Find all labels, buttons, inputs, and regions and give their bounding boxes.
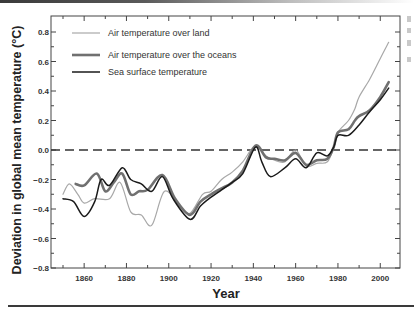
series-ocean-air-temp: [76, 82, 389, 215]
y-axis: 0.80.60.40.20.0−0.2−0.4−0.6−0.8: [33, 28, 400, 273]
y-axis-label: Deviation in global mean temperature (°C…: [10, 26, 24, 275]
x-tick-label: 1980: [329, 274, 347, 283]
clipped-text-fragment: [407, 16, 411, 22]
clipped-text-fragment: [407, 57, 411, 62]
y-tick-label: −0.4: [33, 205, 49, 214]
line-chart: 0.80.60.40.20.0−0.2−0.4−0.6−0.8 18601880…: [0, 0, 414, 312]
clipped-text-fragment: [407, 28, 411, 33]
x-tick-label: 1860: [75, 274, 93, 283]
y-tick-label: 0.8: [38, 28, 50, 37]
x-tick-label: 1940: [244, 274, 262, 283]
x-tick-label: 1960: [287, 274, 305, 283]
y-tick-label: −0.8: [33, 264, 49, 273]
y-tick-label: 0.0: [38, 146, 50, 155]
y-tick-label: 0.6: [38, 58, 50, 67]
y-tick-label: −0.2: [33, 176, 49, 185]
clipped-text-fragment: [407, 40, 411, 46]
bottom-rule: [8, 305, 414, 307]
x-tick-label: 2000: [371, 274, 389, 283]
legend-label-sea-surface: Sea surface temperature: [108, 67, 207, 77]
x-tick-label: 1880: [118, 274, 136, 283]
legend: Air temperature over land Air temperatur…: [72, 28, 237, 77]
x-axis-label: Year: [212, 286, 239, 301]
y-tick-label: 0.2: [38, 117, 50, 126]
series-sea-surface-temp: [63, 88, 389, 219]
x-tick-label: 1920: [202, 274, 220, 283]
y-tick-label: −0.6: [33, 235, 49, 244]
x-tick-label: 1900: [160, 274, 178, 283]
legend-label-land: Air temperature over land: [108, 28, 210, 38]
y-tick-label: 0.4: [38, 87, 50, 96]
legend-label-oceans: Air temperature over the oceans: [108, 50, 237, 60]
